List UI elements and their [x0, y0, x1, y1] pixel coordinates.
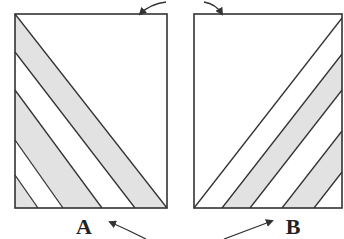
panel-b	[194, 14, 342, 208]
panel-label-a: A	[76, 214, 92, 239]
bottom-arrow-to-A-arrow-icon	[110, 222, 146, 239]
panel-a	[15, 14, 167, 208]
two-panel-stripe-diagram: A B	[0, 0, 344, 239]
top-arrow-to-A-arrow-icon	[140, 2, 166, 14]
top-arrow-to-B-arrow-icon	[204, 2, 222, 14]
bottom-arrow-to-B-arrow-icon	[224, 221, 272, 239]
stripe-line	[15, 14, 167, 208]
panel-label-b: B	[286, 214, 301, 239]
